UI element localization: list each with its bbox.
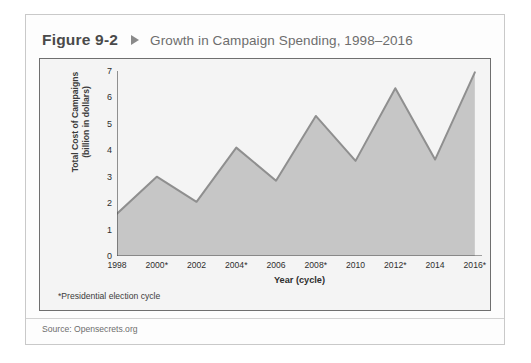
x-tick-label: 2010	[346, 260, 365, 270]
triangle-right-icon	[131, 35, 139, 45]
chart-footnote: *Presidential election cycle	[58, 291, 160, 301]
y-tick-label: 4	[107, 145, 112, 155]
area-chart-svg	[117, 71, 482, 256]
x-tick-label: 2012*	[384, 260, 406, 270]
y-tick-label: 5	[107, 119, 112, 129]
y-axis-title-line2: (billion in dollars)	[81, 35, 92, 210]
y-tick-label: 7	[107, 66, 112, 76]
x-axis-tick-labels: 19982000*20022004*20062008*20102012*2014…	[117, 260, 482, 274]
x-tick-label: 2004*	[225, 260, 247, 270]
figure-card: Figure 9-2 Growth in Campaign Spending, …	[25, 14, 505, 345]
chart-container: Total Cost of Campaigns (billion in doll…	[39, 58, 491, 311]
y-tick-label: 6	[107, 92, 112, 102]
x-tick-label: 2014	[426, 260, 445, 270]
source-divider	[26, 318, 504, 319]
x-tick-label: 2008*	[305, 260, 327, 270]
y-tick-label: 3	[107, 172, 112, 182]
figure-caption: Figure 9-2 Growth in Campaign Spending, …	[42, 27, 494, 53]
y-axis-title-line1: Total Cost of Campaigns	[70, 35, 81, 210]
source-text: Source: Opensecrets.org	[42, 324, 138, 334]
series-area-fill	[117, 72, 475, 256]
y-tick-label: 1	[107, 225, 112, 235]
plot-area: 01234567	[117, 71, 482, 256]
x-tick-label: 2006	[266, 260, 285, 270]
y-axis-title: Total Cost of Campaigns (billion in doll…	[70, 35, 92, 210]
x-tick-label: 2000*	[146, 260, 168, 270]
x-tick-label: 1998	[107, 260, 126, 270]
x-tick-label: 2016*	[464, 260, 486, 270]
x-tick-label: 2002	[187, 260, 206, 270]
x-axis-title: Year (cycle)	[117, 275, 482, 285]
figure-title: Growth in Campaign Spending, 1998–2016	[150, 33, 413, 48]
y-tick-label: 2	[107, 198, 112, 208]
